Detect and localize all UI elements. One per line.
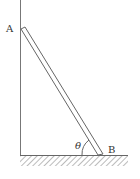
ladder-diagram: A B θ [0, 0, 140, 179]
ground-hatching [20, 156, 128, 166]
angle-arc [82, 140, 89, 155]
label-b: B [108, 144, 115, 155]
label-a: A [5, 23, 14, 34]
ladder-rod [21, 27, 103, 155]
label-theta: θ [75, 140, 81, 151]
